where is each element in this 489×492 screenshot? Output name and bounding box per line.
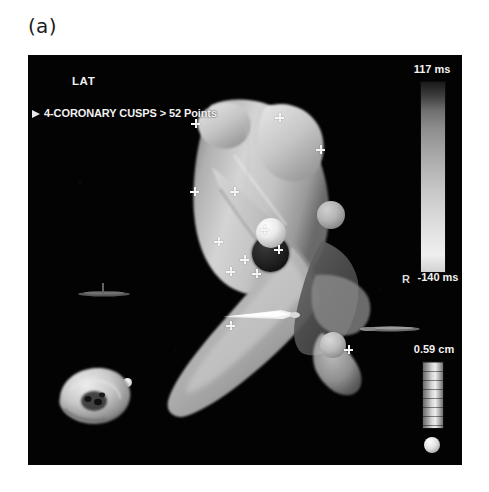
mapping-point-cross[interactable] (226, 321, 235, 330)
distance-reference-sphere (424, 437, 440, 453)
mapping-point-cross[interactable] (191, 119, 200, 128)
mapping-point-cross[interactable] (260, 225, 269, 234)
catheter-right (358, 320, 422, 332)
upper-right-marker-sphere[interactable] (317, 201, 345, 229)
mapping-point-cross[interactable] (190, 187, 199, 196)
lat-color-gradient-bar[interactable] (420, 81, 446, 273)
mapping-point-cross[interactable] (226, 267, 235, 276)
catheter-center (223, 307, 301, 320)
lower-right-marker-sphere[interactable] (320, 332, 346, 358)
body-orientation-reference-model[interactable] (50, 357, 136, 435)
lat-scale-min-label: -140 ms (406, 271, 462, 283)
catheter-left (76, 283, 132, 299)
distance-scale-label: 0.59 cm (404, 343, 462, 355)
map-annotation-label: 4-CORONARY CUSPS > 52 Points (44, 107, 217, 119)
mapping-point-cross[interactable] (344, 345, 353, 354)
mapping-point-cross[interactable] (252, 269, 261, 278)
annotation-arrow-icon (32, 110, 40, 118)
mapping-point-cross[interactable] (230, 187, 239, 196)
panel-label: (a) (28, 14, 57, 38)
distance-ruler-bar[interactable] (422, 361, 444, 429)
mapping-point-cross[interactable] (275, 113, 284, 122)
lat-scale-max-label: 117 ms (406, 63, 458, 75)
electroanatomic-map-viewport[interactable]: LAT 4-CORONARY CUSPS > 52 Points 117 ms … (28, 55, 462, 465)
mapping-point-cross[interactable] (274, 245, 283, 254)
mapping-point-cross[interactable] (316, 145, 325, 154)
mapping-point-cross[interactable] (240, 255, 249, 264)
chamber-mesh-surface (116, 97, 326, 397)
mapping-point-cross[interactable] (214, 237, 223, 246)
map-type-label: LAT (72, 75, 95, 87)
